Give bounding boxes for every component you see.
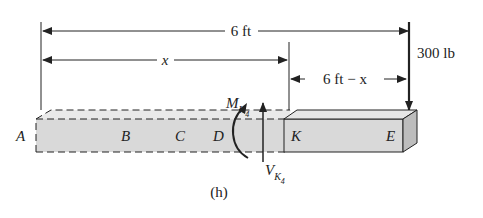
point-b-label: B (121, 128, 130, 144)
beam-right-segment (284, 110, 417, 152)
total-length-dimension: 6 ft (43, 23, 408, 39)
point-k-label: K (290, 128, 302, 144)
point-c-label: C (175, 128, 186, 144)
shear-label: VK4 (265, 162, 285, 186)
point-d-label: D (212, 128, 224, 144)
remaining-length-dimension: 6 ft − x (291, 71, 406, 87)
remaining-length-label: 6 ft − x (323, 71, 367, 87)
point-a-label: A (15, 128, 26, 144)
beam-left-segment (36, 110, 291, 152)
section-length-dimension: x (43, 52, 287, 68)
figure-caption: (h) (210, 184, 228, 201)
total-length-label: 6 ft (231, 23, 252, 39)
load-arrow: 300 lb (409, 22, 455, 110)
beam-free-body-diagram: 6 ft x 6 ft − x 300 lb MK4 VK4 (0, 0, 483, 218)
load-label: 300 lb (417, 45, 455, 61)
point-e-label: E (385, 128, 395, 144)
section-length-label: x (161, 52, 169, 68)
